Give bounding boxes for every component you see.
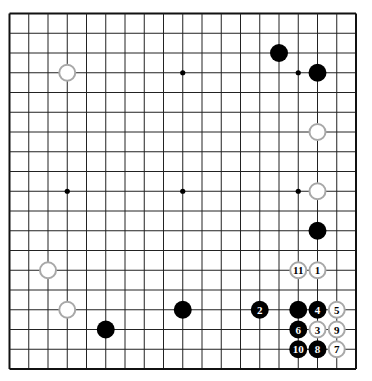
black-stone — [309, 222, 327, 240]
white-stone — [310, 183, 326, 199]
black-stone — [309, 64, 327, 82]
move-number-label: 3 — [315, 324, 321, 336]
star-point — [296, 189, 301, 194]
go-board: 1234567891011 — [0, 0, 372, 381]
black-stone: 4 — [309, 301, 327, 319]
black-stone: 10 — [289, 340, 307, 358]
white-stone: 1 — [310, 262, 326, 278]
white-stone: 11 — [290, 262, 306, 278]
black-stone — [289, 301, 307, 319]
black-stone: 6 — [289, 321, 307, 339]
white-stone: 3 — [310, 322, 326, 338]
white-stone: 7 — [329, 341, 345, 357]
white-stone: 5 — [329, 302, 345, 318]
black-stone — [174, 301, 192, 319]
black-stone-icon — [270, 44, 288, 62]
star-point — [180, 70, 185, 75]
white-stone — [40, 262, 56, 278]
white-stone: 9 — [329, 322, 345, 338]
star-point — [65, 189, 70, 194]
black-stone-icon — [309, 64, 327, 82]
white-stone-icon — [40, 262, 56, 278]
stones-layer: 1234567891011 — [40, 44, 345, 358]
black-stone: 2 — [251, 301, 269, 319]
move-number-label: 6 — [296, 324, 302, 336]
move-number-label: 9 — [334, 324, 340, 336]
white-stone-icon — [310, 124, 326, 140]
white-stone — [59, 302, 75, 318]
star-point — [296, 70, 301, 75]
move-number-label: 4 — [315, 304, 321, 316]
move-number-label: 8 — [315, 343, 321, 355]
white-stone-icon — [310, 183, 326, 199]
black-stone-icon — [289, 301, 307, 319]
move-number-label: 10 — [293, 343, 305, 355]
white-stone-icon — [59, 65, 75, 81]
black-stone — [97, 321, 115, 339]
white-stone — [310, 124, 326, 140]
black-stone: 8 — [309, 340, 327, 358]
move-number-label: 2 — [257, 304, 263, 316]
white-stone-icon — [59, 302, 75, 318]
star-point — [180, 189, 185, 194]
black-stone-icon — [309, 222, 327, 240]
move-number-label: 11 — [293, 264, 303, 276]
move-number-label: 1 — [315, 264, 321, 276]
white-stone — [59, 65, 75, 81]
black-stone — [270, 44, 288, 62]
move-number-label: 7 — [334, 343, 340, 355]
move-number-label: 5 — [334, 304, 340, 316]
black-stone-icon — [97, 321, 115, 339]
black-stone-icon — [174, 301, 192, 319]
